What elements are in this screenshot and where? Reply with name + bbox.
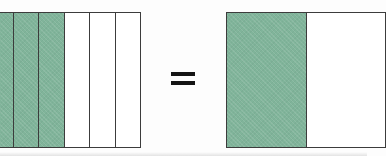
equals-sign-lower-stroke [171,81,195,85]
right-bar-cell-1 [227,13,307,147]
equivalence-statement: 3/6 = 1/2 [0,0,1,1]
left-bar-cell-5 [90,13,116,147]
diagram-title: Equivalent fractions area model [0,0,1,1]
equals-sign-icon: = [171,70,195,88]
left-bar-cell-3 [39,13,65,147]
left-bar-cell-2 [14,13,40,147]
left-bar-cell-4 [65,13,91,147]
right-bar-cells [227,13,385,147]
left-fraction-bar [0,12,141,148]
right-fraction-bar [226,12,386,148]
left-bar-cells [0,13,140,147]
equals-sign-label: = [171,70,172,71]
equals-sign-upper-stroke [171,72,195,76]
left-bar-cell-1 [0,13,14,147]
left-bar-cell-6 [116,13,141,147]
scan-edge-shadow [0,152,367,156]
left-fraction-label: 3/6 [0,0,1,1]
right-bar-cell-2 [307,13,386,147]
right-fraction-label: 1/2 [0,0,1,1]
